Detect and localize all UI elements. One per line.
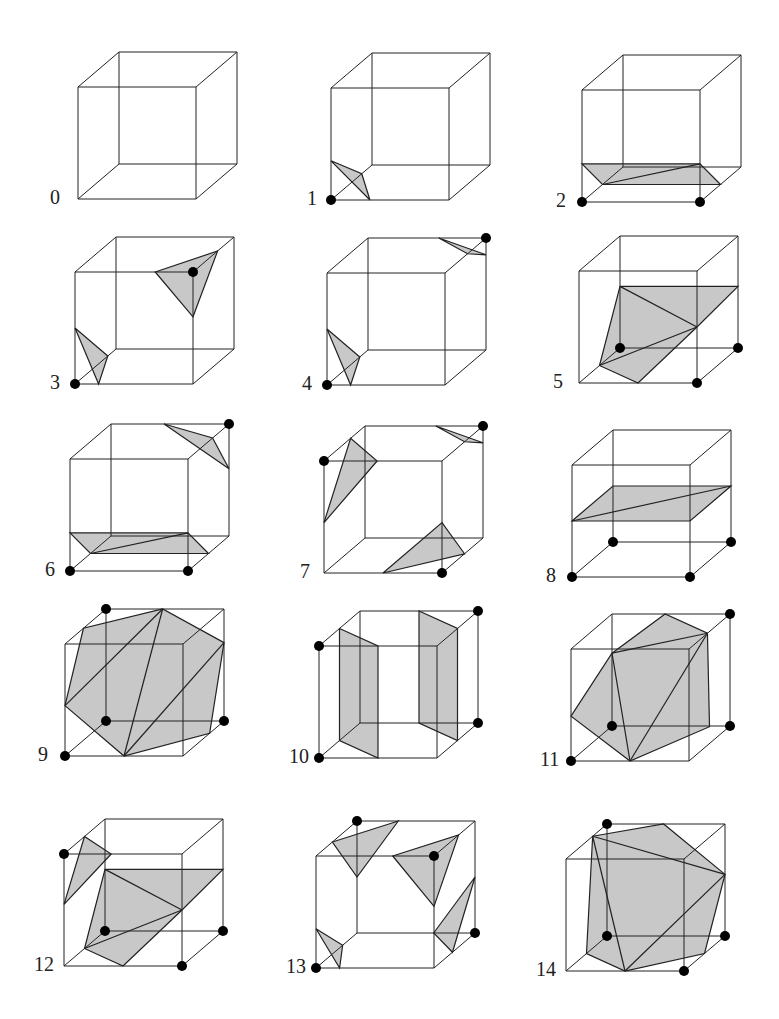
marked-vertex-dot — [615, 343, 625, 353]
case-label: 0 — [50, 186, 60, 208]
cube-edge — [445, 350, 486, 385]
marked-vertex-dot — [219, 716, 229, 726]
isosurface-polygon — [340, 629, 379, 759]
marked-vertex-dot — [352, 816, 362, 826]
marked-vertex-dot — [473, 718, 483, 728]
isosurface-polygon — [419, 611, 458, 741]
case-label: 3 — [50, 371, 60, 393]
case-label: 2 — [556, 189, 566, 211]
cube-edge — [193, 349, 234, 384]
marked-vertex-dot — [322, 380, 332, 390]
marked-vertex-dot — [188, 267, 198, 277]
marked-vertex-dot — [685, 572, 695, 582]
cube-edge — [65, 721, 106, 756]
cube-edge — [700, 55, 741, 90]
isosurface-polygon — [327, 329, 360, 385]
marked-vertex-dot — [314, 753, 324, 763]
marked-vertex-dot — [70, 379, 80, 389]
cube-edge — [690, 542, 731, 577]
cube-edge — [684, 824, 725, 859]
cube-edge — [582, 55, 623, 90]
case-label: 13 — [286, 955, 306, 977]
marked-vertex-dot — [224, 419, 234, 429]
marked-vertex-dot — [725, 609, 735, 619]
marked-vertex-dot — [566, 756, 576, 766]
cube-edge — [331, 53, 372, 88]
marked-vertex-dot — [733, 343, 743, 353]
isosurface-polygon — [332, 821, 398, 877]
marked-vertex-dot — [101, 604, 111, 614]
cube-edge — [75, 237, 116, 272]
case-14-cube: 14 — [536, 819, 730, 980]
marked-vertex-dot — [437, 568, 447, 578]
cube-edge — [70, 424, 111, 459]
case-label: 1 — [307, 187, 317, 209]
marching-cubes-figure: 01234567891011121314 — [0, 0, 779, 1019]
marked-vertex-dot — [60, 751, 70, 761]
marked-vertex-dot — [679, 966, 689, 976]
case-7-cube: 7 — [300, 421, 488, 582]
marked-vertex-dot — [319, 456, 329, 466]
cube-edge — [579, 236, 620, 271]
marked-vertex-dot — [478, 421, 488, 431]
case-label: 9 — [38, 743, 48, 765]
case-label: 10 — [289, 745, 309, 767]
marked-vertex-dot — [577, 197, 587, 207]
case-label: 4 — [302, 372, 312, 394]
case-6-cube: 6 — [45, 419, 234, 580]
marked-vertex-dot — [602, 931, 612, 941]
case-11-cube: 11 — [540, 609, 735, 770]
case-1-cube: 1 — [307, 53, 490, 209]
marked-vertex-dot — [326, 195, 336, 205]
case-8-cube: 8 — [546, 430, 736, 586]
marked-vertex-dot — [218, 926, 228, 936]
isosurface-polygon — [164, 424, 229, 469]
marked-vertex-dot — [725, 721, 735, 731]
marked-vertex-dot — [101, 716, 111, 726]
marked-vertex-dot — [692, 378, 702, 388]
marked-vertex-dot — [65, 566, 75, 576]
isosurface-polygon — [155, 251, 217, 317]
marked-vertex-dot — [177, 961, 187, 971]
cube-edge — [196, 52, 237, 87]
case-10-cube: 10 — [289, 606, 483, 767]
cube-edge — [193, 237, 234, 272]
cube-edge — [324, 538, 365, 573]
isosurface-polygon — [324, 438, 377, 522]
case-3-cube: 3 — [50, 237, 234, 393]
case-label: 8 — [546, 564, 556, 586]
case-label: 5 — [553, 370, 563, 392]
marked-vertex-dot — [100, 926, 110, 936]
cube-edge — [434, 821, 475, 856]
cube-edge — [697, 348, 738, 383]
case-9-cube: 9 — [38, 604, 229, 765]
isosurface-polygon — [383, 523, 465, 573]
cube-edge — [571, 614, 612, 649]
marked-vertex-dot — [314, 641, 324, 651]
case-13-cube: 13 — [286, 816, 480, 977]
isosurface-polygon — [393, 835, 459, 906]
cube-edge — [327, 238, 368, 273]
case-2-cube: 2 — [556, 55, 741, 211]
case-0-cube: 0 — [50, 52, 237, 208]
case-12-cube: 12 — [34, 819, 228, 975]
case-label: 7 — [300, 560, 310, 582]
cube-edge — [78, 164, 119, 199]
marked-vertex-dot — [311, 963, 321, 973]
marked-vertex-dot — [602, 819, 612, 829]
isosurface-polygon — [436, 426, 483, 443]
cube-edge — [572, 430, 613, 465]
marked-vertex-dot — [720, 931, 730, 941]
cube-edge — [182, 931, 223, 966]
case-label: 6 — [45, 558, 55, 580]
case-5-cube: 5 — [553, 236, 743, 392]
marked-vertex-dot — [473, 606, 483, 616]
marked-vertex-dot — [608, 537, 618, 547]
case-label: 12 — [34, 953, 54, 975]
cube-edge — [690, 430, 731, 465]
marked-vertex-dot — [470, 928, 480, 938]
isosurface-polygon — [439, 238, 486, 255]
case-label: 14 — [536, 958, 556, 980]
cube-edge — [78, 52, 119, 87]
marked-vertex-dot — [481, 233, 491, 243]
